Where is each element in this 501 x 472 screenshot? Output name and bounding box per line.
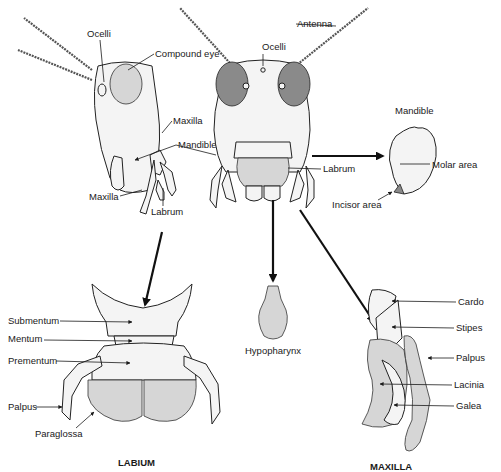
labium-lobe [246, 186, 262, 201]
label-antenna: Antenna [297, 18, 333, 29]
labium [62, 284, 220, 424]
hypopharynx [259, 286, 288, 339]
ocellus-icon [98, 84, 106, 96]
maxilla [362, 290, 430, 451]
lateral-ocellus-icon [279, 83, 285, 89]
caption-maxilla: MAXILLA [370, 461, 412, 472]
palp-right [306, 166, 314, 208]
paraglossa-right [144, 380, 196, 421]
label-hypopharynx: Hypopharynx [245, 345, 301, 356]
front-view-head [180, 8, 368, 208]
hypopharynx-shape [259, 286, 288, 339]
label-prementum: Prementum [8, 355, 57, 366]
antenna-icon [24, 18, 92, 70]
label-ocelli-side: Ocelli [87, 28, 111, 39]
clypeus [234, 142, 292, 158]
mandible-detail [389, 127, 436, 194]
arrow-to-labium [145, 232, 162, 305]
compound-eye-icon [110, 64, 142, 104]
labrum-front [237, 158, 289, 186]
lateral-ocellus-icon [243, 83, 249, 89]
label-molar-area: Molar area [432, 159, 478, 170]
label-palpus-maxilla: Palpus [456, 352, 485, 363]
maxillary-palp-shape [404, 336, 430, 451]
label-incisor-area: Incisor area [332, 199, 382, 210]
label-stipes: Stipes [456, 322, 483, 333]
arrow-to-maxilla [300, 210, 374, 322]
label-submentum: Submentum [8, 315, 59, 326]
prementum-shape [92, 343, 196, 380]
side-view-head [18, 18, 176, 214]
label-cardo: Cardo [458, 296, 484, 307]
label-paraglossa: Paraglossa [35, 428, 83, 439]
label-maxilla-lower: Maxilla [89, 191, 119, 202]
antenna-icon [18, 50, 92, 80]
submentum-shape [92, 284, 192, 336]
label-labrum-side: Labrum [151, 206, 183, 217]
label-mentum: Mentum [8, 333, 42, 344]
label-palpus-labium: Palpus [8, 401, 37, 412]
label-maxilla-upper: Maxilla [173, 115, 203, 126]
label-galea: Galea [456, 400, 482, 411]
labium-lobe [264, 186, 280, 201]
label-mandible-side: Mandible [178, 139, 217, 150]
maxilla-part [110, 156, 124, 190]
label-lacinia: Lacinia [454, 379, 485, 390]
paraglossa-left [88, 380, 142, 421]
label-ocelli-front: Ocelli [262, 41, 286, 52]
label-compound-eye: Compound eye [155, 48, 219, 59]
mandible-left [222, 170, 236, 202]
mandible-right [290, 170, 304, 202]
mandible-detail-title: Mandible [395, 105, 434, 116]
mouthparts-diagram: Ocelli Compound eye Maxilla Mandible Max… [0, 0, 501, 472]
palp-left [210, 166, 222, 208]
label-labrum-front: Labrum [323, 163, 355, 174]
caption-labium: LABIUM [118, 457, 155, 468]
median-ocellus-icon [261, 68, 265, 72]
mandible-shape [389, 127, 436, 194]
